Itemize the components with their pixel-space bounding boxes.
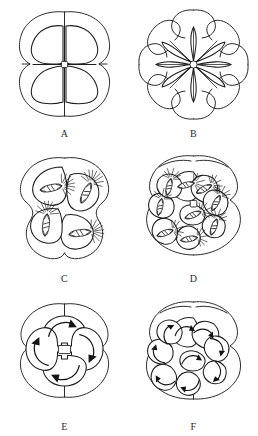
panel-f: F <box>129 290 258 436</box>
panel-d-illustration <box>129 145 258 273</box>
panel-b-label: B <box>190 129 197 139</box>
panel-a-label: A <box>61 129 69 139</box>
panel-f-illustration <box>129 290 258 420</box>
panel-a-center-polygon <box>61 61 67 67</box>
panel-d-center-polygon <box>190 200 197 207</box>
figure-panel-grid: A <box>0 0 258 436</box>
panel-e-center-polygon <box>58 345 70 353</box>
panel-d-label: D <box>190 274 198 284</box>
panel-b-radial-furrows <box>156 27 231 102</box>
panel-e-label: E <box>61 422 67 432</box>
panel-c-illustration <box>0 145 129 273</box>
panel-b-illustration <box>129 0 258 128</box>
panel-d: D <box>129 145 258 290</box>
panel-e-illustration <box>0 290 129 420</box>
panel-a-illustration <box>0 0 129 128</box>
panel-b: B <box>129 0 258 145</box>
panel-c: C <box>0 145 129 290</box>
panel-e: E <box>0 290 129 436</box>
panel-b-center-polygon <box>190 61 197 68</box>
panel-f-label: F <box>191 422 197 432</box>
panel-c-label: C <box>61 274 68 284</box>
panel-a: A <box>0 0 129 145</box>
panel-c-blastomeres <box>31 167 99 249</box>
